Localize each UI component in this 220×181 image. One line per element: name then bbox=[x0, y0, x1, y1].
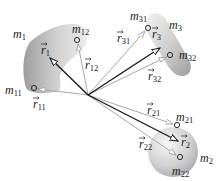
mass-distribution-diagram: m1 m2 m3 m11 m12 m31 m32 m21 m22 r1 r3 r… bbox=[0, 0, 220, 181]
cm-vectors bbox=[50, 48, 178, 141]
vector-r2 bbox=[88, 95, 178, 141]
svg-text:r21: r21 bbox=[147, 103, 160, 118]
label-m32: m32 bbox=[179, 48, 196, 63]
label-r32: r32 bbox=[148, 69, 161, 85]
label-r11: r11 bbox=[33, 97, 46, 113]
svg-text:r11: r11 bbox=[33, 97, 46, 112]
svg-text:r32: r32 bbox=[148, 69, 161, 84]
label-m11: m11 bbox=[5, 83, 22, 98]
label-m1: m1 bbox=[13, 27, 26, 42]
svg-text:r31: r31 bbox=[117, 31, 130, 46]
label-m21: m21 bbox=[176, 110, 193, 125]
vector-r22 bbox=[88, 95, 176, 155]
label-m12: m12 bbox=[72, 22, 89, 37]
label-m3: m3 bbox=[169, 18, 182, 33]
label-r31: r31 bbox=[117, 31, 130, 47]
label-r21: r21 bbox=[147, 103, 160, 119]
svg-text:r22: r22 bbox=[139, 137, 152, 152]
label-r12: r12 bbox=[85, 58, 98, 74]
svg-text:r12: r12 bbox=[85, 58, 98, 73]
label-m31: m31 bbox=[130, 9, 147, 24]
label-m2: m2 bbox=[200, 151, 213, 166]
label-r22: r22 bbox=[139, 137, 152, 153]
vector-r21 bbox=[88, 95, 173, 124]
